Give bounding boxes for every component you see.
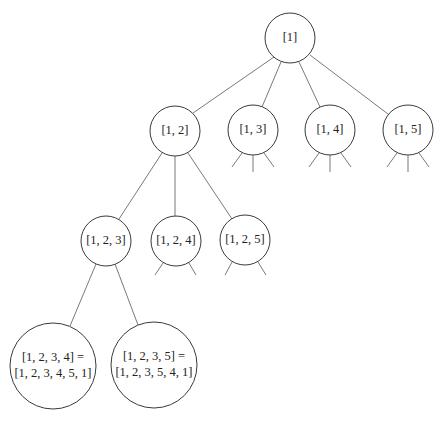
node-1-5: [1, 5]: [383, 105, 433, 155]
node-1-3: [1, 3]: [228, 105, 278, 155]
truncated-branch-stubs: [155, 153, 429, 275]
node-label: [1, 4]: [316, 122, 343, 136]
leaf-label-line2: [1, 2, 3, 4, 5, 1]: [14, 366, 91, 380]
node-root: [1]: [265, 13, 315, 63]
leaf-label-line1: [1, 2, 3, 4] =: [22, 350, 84, 364]
tree-diagram: [1] [1, 2] [1, 3] [1, 4] [1, 5] [1, 2, 3…: [0, 0, 447, 422]
node-label: [1]: [283, 30, 298, 44]
leaf-1-2-3-4: [1, 2, 3, 4] = [1, 2, 3, 4, 5, 1]: [10, 323, 96, 409]
leaf-label-line2: [1, 2, 3, 5, 4, 1]: [115, 365, 192, 379]
node-label: [1, 2]: [161, 123, 188, 137]
leaf-label-line1: [1, 2, 3, 5] =: [123, 349, 185, 363]
node-label: [1, 2, 4]: [156, 233, 196, 247]
node-1-2-5: [1, 2, 5]: [220, 215, 270, 265]
node-1-2-4: [1, 2, 4]: [151, 216, 201, 266]
node-1-2-3: [1, 2, 3]: [81, 216, 131, 266]
node-1-4: [1, 4]: [305, 105, 355, 155]
node-label: [1, 2, 5]: [225, 232, 265, 246]
node-label: [1, 3]: [239, 122, 266, 136]
node-1-2: [1, 2]: [150, 106, 200, 156]
node-label: [1, 2, 3]: [86, 233, 126, 247]
leaf-1-2-3-5: [1, 2, 3, 5] = [1, 2, 3, 5, 4, 1]: [111, 322, 197, 408]
edges: [70, 55, 388, 326]
node-label: [1, 5]: [394, 122, 421, 136]
